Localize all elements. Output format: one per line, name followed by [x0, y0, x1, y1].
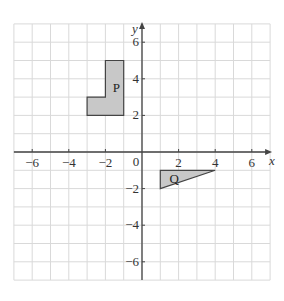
x-tick-label: −4 — [62, 155, 76, 170]
origin-label: 0 — [133, 154, 140, 169]
coordinate-grid: PQ −6−4−2246642−2−4−60xy — [0, 0, 284, 301]
x-axis-label: x — [268, 153, 275, 168]
y-tick-label: −2 — [125, 181, 139, 196]
y-tick-label: −6 — [125, 254, 139, 269]
y-tick-label: 4 — [133, 71, 140, 86]
y-tick-label: −4 — [125, 217, 139, 232]
y-axis-label: y — [130, 21, 138, 36]
y-tick-label: 6 — [133, 34, 140, 49]
x-tick-label: −6 — [25, 155, 39, 170]
shape-label-q: Q — [169, 171, 179, 186]
tick-labels: −6−4−2246642−2−4−60xy — [25, 21, 275, 269]
x-tick-label: −2 — [98, 155, 112, 170]
y-axis-arrow-icon — [139, 22, 145, 29]
y-tick-label: 2 — [133, 107, 140, 122]
x-tick-label: 6 — [249, 155, 256, 170]
x-tick-label: 4 — [212, 155, 219, 170]
x-tick-label: 2 — [175, 155, 182, 170]
shape-label-p: P — [113, 80, 120, 95]
